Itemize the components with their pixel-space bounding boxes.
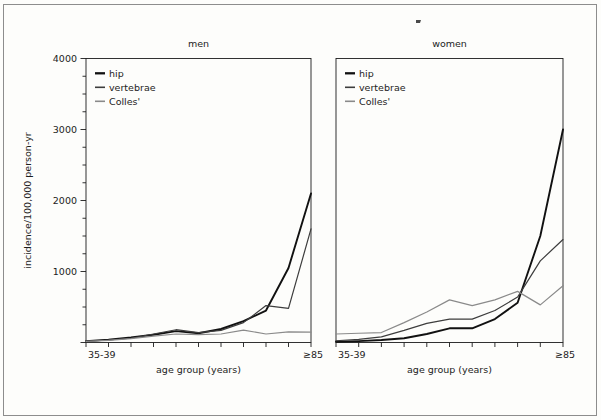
legend-label-women-1: vertebrae — [359, 82, 406, 93]
figure-page: men35-39≥85age group (years)100020003000… — [0, 0, 601, 420]
x-tick-label-last-women: ≥85 — [555, 349, 575, 360]
scan-artifact-speck — [416, 20, 421, 23]
series-line-men-hip — [86, 193, 311, 341]
y-tick-label-1000: 1000 — [53, 266, 77, 277]
legend-label-women-0: hip — [359, 68, 374, 79]
series-line-women-hip — [336, 130, 563, 342]
series-line-women-Colles' — [336, 286, 563, 334]
x-axis-title-women: age group (years) — [407, 364, 492, 375]
legend-label-men-1: vertebrae — [109, 82, 156, 93]
y-tick-label-4000: 4000 — [53, 53, 77, 64]
x-tick-label-first-women: 35-39 — [338, 349, 366, 360]
series-line-women-vertebrae — [336, 240, 563, 341]
panel-title-women: women — [432, 38, 467, 49]
x-tick-label-last-men: ≥85 — [303, 349, 323, 360]
series-line-men-Colles' — [86, 330, 311, 341]
legend-label-men-0: hip — [109, 68, 124, 79]
y-tick-label-3000: 3000 — [53, 124, 77, 135]
legend-label-women-2: Colles' — [359, 96, 390, 107]
y-axis-title: incidence/100,000 person-yr — [22, 132, 33, 268]
x-axis-title-men: age group (years) — [156, 364, 241, 375]
panel-title-men: men — [188, 38, 209, 49]
chart-figure: men35-39≥85age group (years)100020003000… — [0, 0, 601, 420]
legend-label-men-2: Colles' — [109, 96, 140, 107]
series-line-men-vertebrae — [86, 229, 311, 342]
x-tick-label-first-men: 35-39 — [88, 349, 116, 360]
y-tick-label-2000: 2000 — [53, 195, 77, 206]
